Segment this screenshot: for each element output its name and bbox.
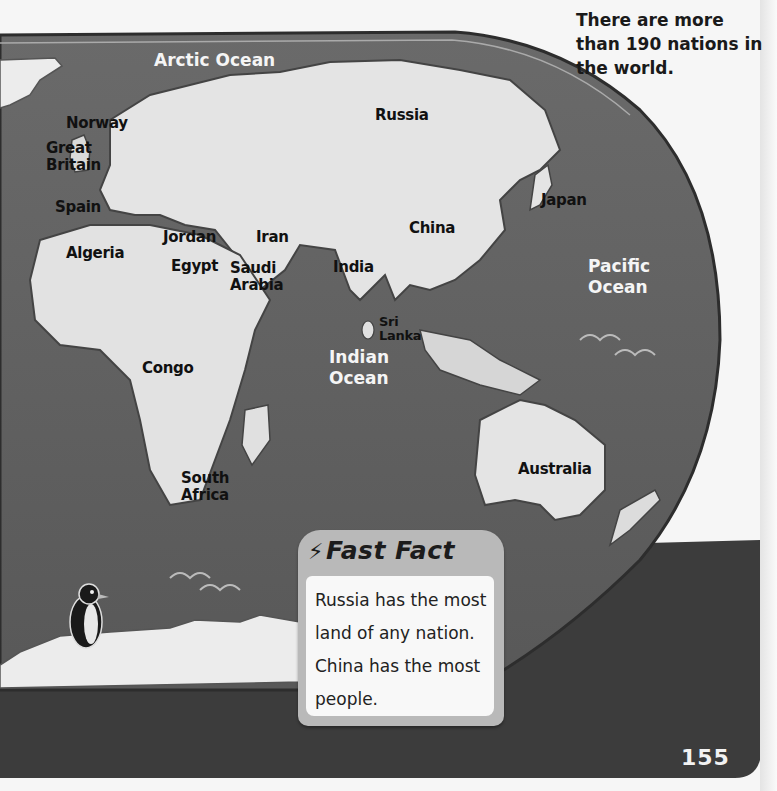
country-label: Spain xyxy=(55,199,101,216)
fast-fact-text: Russia has the most land of any nation. … xyxy=(315,584,495,716)
country-label: Jordan xyxy=(163,229,216,246)
penguin-illustration xyxy=(62,580,112,652)
fast-fact-box: ⚡Fast Fact Russia has the most land of a… xyxy=(298,530,504,726)
ocean-label: Arctic Ocean xyxy=(154,50,275,71)
country-label: Japan xyxy=(541,192,587,209)
country-label: China xyxy=(409,220,455,237)
country-label: India xyxy=(333,259,374,276)
ocean-label: Pacific Ocean xyxy=(588,256,650,298)
intro-text: There are more than 190 nations in the w… xyxy=(576,8,766,80)
country-label: Saudi Arabia xyxy=(230,260,283,294)
country-label: Algeria xyxy=(66,245,124,262)
fast-fact-title: ⚡Fast Fact xyxy=(308,536,455,565)
country-label: South Africa xyxy=(181,470,229,504)
ocean-label: Indian Ocean xyxy=(329,347,389,389)
country-label: Norway xyxy=(66,115,128,132)
page-edge xyxy=(760,0,777,791)
country-label: Australia xyxy=(518,461,592,478)
lightning-bolt-icon: ⚡ xyxy=(308,539,324,564)
country-label: Iran xyxy=(256,229,289,246)
country-label: Egypt xyxy=(171,258,218,275)
textbook-page: There are more than 190 nations in the w… xyxy=(0,0,777,791)
fast-fact-title-text: Fast Fact xyxy=(326,536,455,565)
page-number: 155 xyxy=(681,745,730,770)
country-label: Russia xyxy=(375,107,429,124)
country-label: Congo xyxy=(142,360,194,377)
country-label: Great Britain xyxy=(46,140,101,174)
country-label: Sri Lanka xyxy=(379,315,421,343)
